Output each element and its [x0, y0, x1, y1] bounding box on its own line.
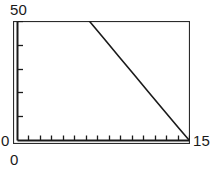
y-axis-min-label: 0: [1, 133, 10, 148]
line-chart: 50 0 0 15: [0, 0, 210, 172]
y-axis-max-label: 50: [10, 2, 27, 17]
plot-frame-border: [14, 22, 190, 144]
x-axis-max-label: 15: [193, 133, 210, 148]
data-series-group: [89, 21, 189, 140]
plot-canvas: [13, 21, 190, 144]
plot-area: [13, 21, 190, 144]
x-axis-min-label: 0: [10, 152, 19, 167]
